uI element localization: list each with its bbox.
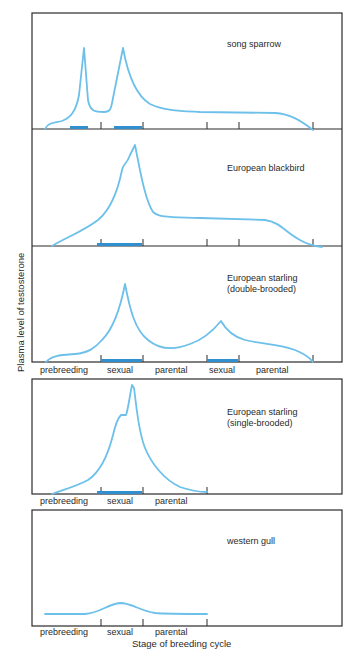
testosterone-figure: song sparrow European blackbird European… xyxy=(0,0,361,657)
european-blackbird-curve xyxy=(52,145,322,247)
top-frame xyxy=(32,13,342,362)
panel-european-blackbird: European blackbird xyxy=(52,145,322,247)
stage-label-sexual-2: sexual xyxy=(209,365,235,375)
panel5-title: western gull xyxy=(226,536,275,546)
european-starling-single-curve xyxy=(52,385,207,494)
stage-label-prebreeding: prebreeding xyxy=(40,496,88,506)
panel4-frame xyxy=(32,379,342,494)
stage-label-sexual: sexual xyxy=(107,365,133,375)
panel4-title-line1: European starling xyxy=(227,407,298,417)
panel-western-gull: western gull xyxy=(45,536,275,626)
stage-labels-long: prebreeding sexual parental sexual paren… xyxy=(40,365,289,375)
panel1-title: song sparrow xyxy=(227,39,282,49)
stage-label-prebreeding: prebreeding xyxy=(40,365,88,375)
panel5-frame xyxy=(32,510,342,626)
stage-label-parental: parental xyxy=(155,496,188,506)
european-starling-double-curve xyxy=(46,284,313,362)
song-sparrow-curve xyxy=(45,48,313,130)
panel2-title: European blackbird xyxy=(227,163,305,173)
stage-label-parental: parental xyxy=(155,627,188,637)
stage-label-sexual: sexual xyxy=(107,496,133,506)
panel4-title-line2: (single-brooded) xyxy=(227,418,293,428)
y-axis-label: Plasma level of testosterone xyxy=(15,253,26,372)
stage-labels-short-1: prebreeding sexual parental xyxy=(40,496,188,506)
western-gull-curve xyxy=(45,603,207,614)
panel3-title-line1: European starling xyxy=(227,273,298,283)
stage-label-sexual: sexual xyxy=(107,627,133,637)
panel-european-starling-single: European starling (single-brooded) xyxy=(52,385,298,494)
x-axis-label: Stage of breeding cycle xyxy=(132,638,231,649)
stage-labels-short-2: prebreeding sexual parental xyxy=(40,627,188,637)
stage-label-prebreeding: prebreeding xyxy=(40,627,88,637)
panel-european-starling-double: European starling (double-brooded) xyxy=(46,273,313,362)
panel3-title-line2: (double-brooded) xyxy=(227,284,296,294)
panel-song-sparrow: song sparrow xyxy=(45,39,313,130)
stage-label-parental: parental xyxy=(155,365,188,375)
stage-label-parental-2: parental xyxy=(256,365,289,375)
